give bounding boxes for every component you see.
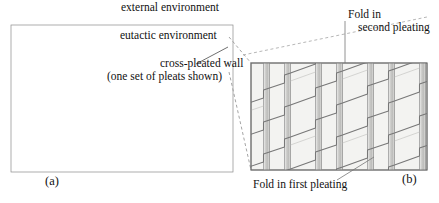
label-fold-in-first-pleating: Fold in first pleating [253,178,347,191]
cross-pleated-wall-figure: external environment eutactic environmen… [0,0,439,203]
label-fold-second-line2: second pleating [348,21,430,34]
vertical-fold-band [388,63,395,170]
vertical-fold-band [284,63,291,170]
panel-label-b: (b) [402,172,417,186]
label-one-set-of-pleats-shown: (one set of pleats shown) [107,70,222,83]
chamber-outline [11,25,233,172]
label-cross-pleated-wall: cross-pleated wall [160,57,243,70]
panel-label-a: (a) [45,174,59,188]
label-eutactic-environment: eutactic environment [120,29,217,42]
label-fold-in-second-pleating: Fold in second pleating [348,8,430,34]
vertical-fold-band [336,63,343,170]
vertical-fold-band [315,63,322,170]
label-fold-second-line1: Fold in [348,8,381,20]
vertical-fold-band [419,63,426,170]
panel-b-detail [240,21,434,184]
panel-a-chamber [11,25,233,172]
label-external-environment: external environment [121,1,219,14]
